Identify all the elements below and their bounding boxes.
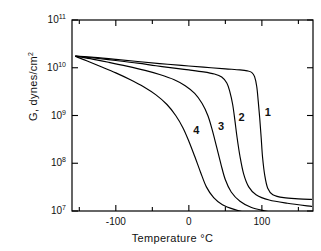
x-tick-label-100: 100 — [232, 216, 292, 227]
curve-label-2: 2 — [238, 111, 244, 123]
figure-container: G, dynes/cm2 Temperature °C 107108109101… — [0, 0, 321, 251]
axis-ticks — [72, 20, 313, 211]
y-tick-label-8: 108 — [22, 156, 66, 168]
axes-frame — [72, 20, 313, 211]
x-tick-label-0: 0 — [159, 216, 219, 227]
curve-label-3: 3 — [218, 120, 224, 132]
y-tick-label-10: 1010 — [22, 61, 66, 73]
curve-3 — [76, 56, 277, 213]
curve-label-4: 4 — [193, 124, 199, 136]
y-tick-label-9: 109 — [22, 109, 66, 121]
x-axis-label: Temperature °C — [0, 232, 321, 244]
x-tick-label--100: -100 — [86, 216, 146, 227]
y-axis-label: G, dynes/cm2 — [27, 6, 40, 166]
y-tick-label-11: 1011 — [22, 13, 66, 25]
curve-label-1: 1 — [265, 106, 271, 118]
y-axis-label-exponent: 2 — [27, 52, 34, 56]
y-tick-label-7: 107 — [22, 204, 66, 216]
curve-4 — [76, 57, 262, 215]
